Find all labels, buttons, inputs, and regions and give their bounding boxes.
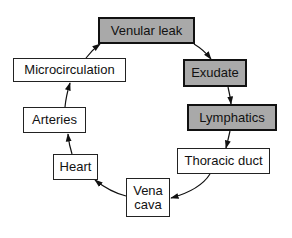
node-microcirculation: Microcirculation xyxy=(13,58,126,82)
node-label: Microcirculation xyxy=(24,63,114,77)
node-label: Heart xyxy=(60,160,92,174)
edge-lymphatics-to-thoracic-duct xyxy=(226,131,230,148)
edge-venular-leak-to-exudate xyxy=(194,44,211,59)
node-venular-leak: Venular leak xyxy=(98,17,195,44)
node-label: Exudate xyxy=(191,66,239,80)
node-label: Vena cava xyxy=(133,184,163,212)
edge-vena-cava-to-heart xyxy=(95,180,126,196)
edge-arteries-to-microcirculation xyxy=(65,83,70,107)
node-label: Lymphatics xyxy=(199,111,264,125)
node-label: Venular leak xyxy=(111,24,183,38)
node-vena-cava: Vena cava xyxy=(126,178,170,217)
edge-heart-to-arteries xyxy=(68,134,72,154)
node-lymphatics: Lymphatics xyxy=(187,104,277,131)
node-label: Thoracic duct xyxy=(184,154,262,168)
node-heart: Heart xyxy=(53,154,98,180)
edge-exudate-to-lymphatics xyxy=(228,87,231,104)
node-exudate: Exudate xyxy=(183,59,247,87)
circulation-cycle-diagram: Venular leak Exudate Lymphatics Thoracic… xyxy=(0,0,292,238)
node-arteries: Arteries xyxy=(23,107,86,133)
node-label: Arteries xyxy=(32,113,77,127)
edge-thoracic-duct-to-vena-cava xyxy=(171,174,210,198)
node-thoracic-duct: Thoracic duct xyxy=(177,148,270,174)
edge-microcirculation-to-venular-leak xyxy=(86,44,100,58)
